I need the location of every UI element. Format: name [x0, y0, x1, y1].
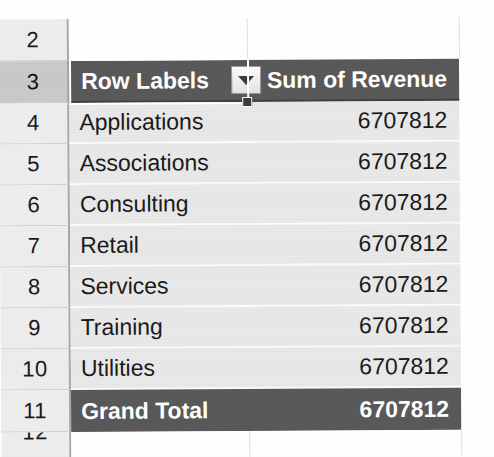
fill-handle[interactable] [242, 97, 252, 107]
column-gridline [461, 430, 462, 456]
column-gridline [247, 18, 248, 60]
column-gridline [459, 17, 460, 59]
row-8-empty-tail [460, 264, 494, 305]
row-header-10[interactable]: 10 [1, 349, 71, 390]
table-row[interactable]: 9 Training 6707812 [0, 305, 494, 349]
row-9-cells[interactable]: Training 6707812 [70, 306, 460, 349]
row-labels-header[interactable]: Row Labels [69, 67, 231, 95]
grand-total-cells[interactable]: Grand Total 6707812 [71, 388, 461, 432]
row-4-empty-tail [459, 100, 493, 141]
worksheet-grid: 2 3 Row Labels Sum of Revenue [0, 0, 494, 457]
row-label-cell[interactable]: Associations [70, 148, 359, 177]
sheet-row-2[interactable]: 2 [0, 16, 493, 61]
row-header-5[interactable]: 5 [0, 144, 70, 185]
grand-total-label[interactable]: Grand Total [71, 396, 360, 425]
row-label-cell[interactable]: Utilities [71, 353, 360, 382]
row-10-cells[interactable]: Utilities 6707812 [71, 347, 461, 390]
row-6-empty-tail [460, 182, 494, 223]
row-header-4[interactable]: 4 [0, 103, 69, 144]
row-9-empty-tail [460, 305, 494, 346]
row-value-cell[interactable]: 6707812 [358, 148, 460, 176]
row-labels-filter-button[interactable] [231, 66, 261, 94]
column-gridline [249, 431, 250, 457]
row-12-cells[interactable] [71, 429, 494, 457]
row-label-cell[interactable]: Retail [70, 230, 359, 259]
spreadsheet-screenshot: 2 3 Row Labels Sum of Revenue [0, 0, 494, 457]
chevron-down-icon [238, 75, 254, 84]
row-header-2[interactable]: 2 [0, 19, 69, 61]
table-row[interactable]: 10 Utilities 6707812 [1, 346, 494, 390]
table-row[interactable]: 6 Consulting 6707812 [0, 182, 494, 226]
grand-total-row[interactable]: 11 Grand Total 6707812 [1, 387, 494, 432]
row-value-cell[interactable]: 6707812 [359, 312, 461, 340]
row-8-cells[interactable]: Services 6707812 [70, 265, 460, 308]
row-header-9[interactable]: 9 [0, 308, 70, 349]
grand-total-value[interactable]: 6707812 [359, 395, 461, 423]
row-label-cell[interactable]: Training [71, 312, 360, 341]
row-2-cells[interactable] [69, 16, 493, 61]
row-value-cell[interactable]: 6707812 [358, 189, 460, 217]
table-row[interactable]: 4 Applications 6707812 [0, 100, 493, 144]
row-3-empty-tail [459, 58, 493, 100]
pivot-header-cells[interactable]: Row Labels Sum of Revenue [69, 59, 459, 103]
row-value-cell[interactable]: 6707812 [358, 230, 460, 258]
row-10-empty-tail [461, 346, 494, 387]
row-header-12[interactable]: 12 [1, 432, 71, 457]
row-value-cell[interactable]: 6707812 [359, 271, 461, 299]
row-6-cells[interactable]: Consulting 6707812 [70, 183, 460, 226]
row-7-cells[interactable]: Retail 6707812 [70, 224, 460, 267]
row-label-cell[interactable]: Services [70, 271, 359, 300]
row-value-cell[interactable]: 6707812 [359, 353, 461, 381]
row-header-6[interactable]: 6 [0, 185, 70, 226]
row-4-cells[interactable]: Applications 6707812 [69, 101, 459, 144]
row-5-empty-tail [459, 141, 493, 182]
sum-of-revenue-header[interactable]: Sum of Revenue [267, 65, 459, 93]
sheet-row-12[interactable]: 12 [1, 429, 494, 457]
table-row[interactable]: 7 Retail 6707812 [0, 223, 494, 267]
row-11-empty-tail [461, 387, 494, 429]
row-value-cell[interactable]: 6707812 [358, 107, 460, 135]
table-row[interactable]: 8 Services 6707812 [0, 264, 494, 308]
row-label-cell[interactable]: Applications [69, 107, 358, 136]
table-row[interactable]: 5 Associations 6707812 [0, 141, 494, 185]
row-header-11[interactable]: 11 [1, 390, 71, 432]
row-header-7[interactable]: 7 [0, 226, 70, 267]
row-label-cell[interactable]: Consulting [70, 189, 359, 218]
row-7-empty-tail [460, 223, 494, 264]
row-header-3[interactable]: 3 [0, 61, 69, 103]
row-header-8[interactable]: 8 [0, 267, 70, 308]
row-5-cells[interactable]: Associations 6707812 [69, 142, 459, 185]
